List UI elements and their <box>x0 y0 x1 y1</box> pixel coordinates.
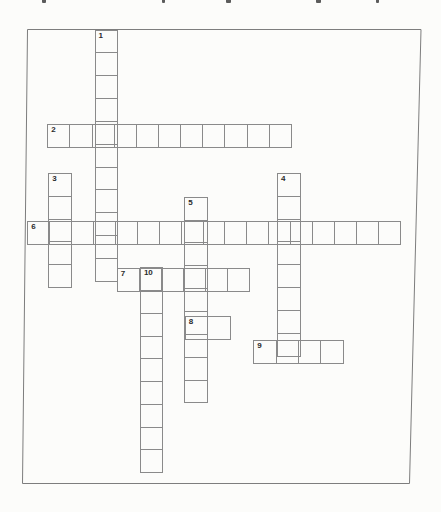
word-9-across: 9 <box>253 340 343 364</box>
clue-number: 5 <box>188 199 192 207</box>
crossword-cell[interactable] <box>298 340 321 364</box>
crossword-cell[interactable] <box>140 427 163 451</box>
crossword-cell[interactable] <box>268 221 291 245</box>
clue-number: 6 <box>31 223 35 231</box>
crossword-cell[interactable] <box>140 381 163 405</box>
crossword-cell[interactable] <box>184 288 208 312</box>
word-10-down: 10 <box>140 267 163 473</box>
clue-number: 2 <box>51 126 55 134</box>
crossword-cell[interactable] <box>202 124 225 148</box>
word-7-across: 7 <box>117 268 250 292</box>
crossword-cell[interactable] <box>203 221 226 245</box>
crossword-cell[interactable] <box>48 241 72 265</box>
crossword-cell[interactable] <box>207 316 231 340</box>
crossword-cell[interactable] <box>184 380 208 404</box>
crossword-cell[interactable]: 4 <box>277 173 301 197</box>
crossword-cell[interactable] <box>93 221 116 245</box>
crossword-cell[interactable] <box>95 189 119 213</box>
crossword-cell[interactable] <box>136 124 159 148</box>
crossword-cell[interactable] <box>277 264 301 288</box>
crossword-cell[interactable]: 6 <box>27 221 50 245</box>
crossword-cell[interactable] <box>158 124 181 148</box>
crossword-cell[interactable] <box>184 242 208 266</box>
crossword-cell[interactable] <box>161 268 184 292</box>
crossword-cell[interactable] <box>246 221 269 245</box>
crossword-cell[interactable] <box>356 221 379 245</box>
crossword-cell[interactable] <box>224 221 247 245</box>
word-2-across: 2 <box>47 124 292 148</box>
crossword-cell[interactable] <box>140 358 163 382</box>
clue-number: 1 <box>99 32 103 40</box>
clue-number: 3 <box>52 175 56 183</box>
crossword-cell[interactable] <box>48 264 72 288</box>
crossword-cell[interactable] <box>140 404 163 428</box>
crossword-cell[interactable] <box>95 75 119 99</box>
crossword-cell[interactable] <box>184 357 208 381</box>
crossword-cell[interactable] <box>277 287 301 311</box>
crossword-cell[interactable] <box>312 221 335 245</box>
crossword-cell[interactable] <box>95 52 119 76</box>
crossword-cell[interactable] <box>137 221 160 245</box>
crossword-cell[interactable] <box>290 221 313 245</box>
crossword-cell[interactable]: 10 <box>140 267 163 291</box>
crossword-cell[interactable] <box>95 98 119 122</box>
crossword-cell[interactable] <box>181 221 204 245</box>
crossword-cell[interactable] <box>378 221 401 245</box>
crossword-cell[interactable]: 2 <box>47 124 70 148</box>
crossword-cell[interactable] <box>71 221 94 245</box>
crossword-cell[interactable]: 5 <box>184 197 208 221</box>
crossword-cell[interactable]: 1 <box>95 30 119 54</box>
crossword-cell[interactable] <box>159 221 182 245</box>
crossword-cell[interactable] <box>247 124 270 148</box>
crossword-cell[interactable] <box>277 241 301 265</box>
word-4-down: 4 <box>277 173 301 357</box>
crossword-cell[interactable] <box>115 221 138 245</box>
crossword-cell[interactable]: 9 <box>253 340 276 364</box>
clue-number: 8 <box>189 318 193 326</box>
crossword-cell[interactable] <box>276 340 299 364</box>
crossword-cell[interactable] <box>140 449 163 473</box>
crossword-cell[interactable] <box>183 268 206 292</box>
crossword-cell[interactable] <box>140 290 163 314</box>
word-8-across: 8 <box>185 316 232 340</box>
crossword-cell[interactable] <box>205 268 228 292</box>
crossword-cell[interactable]: 3 <box>48 173 72 197</box>
crossword-cell[interactable] <box>277 310 301 334</box>
crossword-cell[interactable] <box>95 167 119 191</box>
crossword-cell[interactable] <box>320 340 343 364</box>
crossword-cell[interactable] <box>224 124 247 148</box>
crossword-cell[interactable] <box>334 221 357 245</box>
scanned-crossword-page: 12345678910 <box>0 0 441 512</box>
crossword-cell[interactable] <box>49 221 72 245</box>
clue-number: 9 <box>257 342 261 350</box>
crossword-cell[interactable] <box>140 313 163 337</box>
crossword-cell[interactable] <box>140 336 163 360</box>
crossword-cell[interactable] <box>95 258 119 282</box>
crossword-cell[interactable]: 8 <box>185 316 209 340</box>
crossword-cell[interactable] <box>114 124 137 148</box>
crossword-cell[interactable]: 7 <box>117 268 140 292</box>
crossword-cell[interactable] <box>277 196 301 220</box>
crossword-cell[interactable] <box>269 124 292 148</box>
clue-number: 7 <box>121 270 125 278</box>
word-6-across: 6 <box>27 221 400 245</box>
crossword-cell[interactable] <box>180 124 203 148</box>
crossword-cell[interactable] <box>48 196 72 220</box>
crossword-cell[interactable] <box>69 124 92 148</box>
clue-number: 4 <box>281 175 285 183</box>
crossword-cell[interactable] <box>227 268 250 292</box>
clue-number: 10 <box>144 269 152 277</box>
crossword-cell[interactable] <box>92 124 115 148</box>
